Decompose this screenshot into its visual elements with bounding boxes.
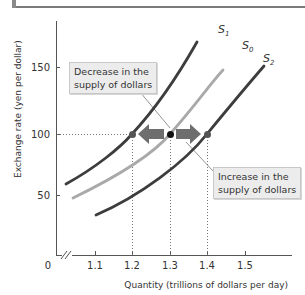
arrow-left-icon <box>138 124 164 144</box>
curve-label-s2: S2 <box>263 52 275 67</box>
increase-line1: Increase in the <box>218 170 296 183</box>
x-tick-1-1: 1.1 <box>87 260 103 271</box>
x-tick-1-2: 1.2 <box>124 260 140 271</box>
curve-label-s0: S0 <box>242 39 254 54</box>
point-s0-1-3 <box>167 131 174 138</box>
y-tick-50: 50 <box>37 190 50 201</box>
y-tick-100: 100 <box>31 129 50 140</box>
increase-leader-line <box>186 142 213 171</box>
arrow-right-icon <box>176 124 201 144</box>
decrease-line1: Decrease in the <box>74 65 152 78</box>
increase-line2: supply of dollars <box>218 183 296 196</box>
y-tick-150: 150 <box>31 62 50 73</box>
chart-plot: 150 100 50 0 1.1 1.2 1.3 1.4 1.5 Quantit… <box>0 0 305 295</box>
x-tick-1-5: 1.5 <box>237 260 253 271</box>
decrease-supply-callout: Decrease in the supply of dollars <box>69 62 157 94</box>
x-tick-1-3: 1.3 <box>162 260 178 271</box>
decrease-line2: supply of dollars <box>74 78 152 91</box>
curve-label-s1: S1 <box>218 23 229 38</box>
x-axis-label: Quantity (trillions of dollars per day) <box>124 280 288 290</box>
increase-supply-callout: Increase in the supply of dollars <box>213 167 301 199</box>
point-s2-1-4 <box>204 131 211 138</box>
axis-break-icon <box>61 250 72 260</box>
origin-label: 0 <box>45 260 51 271</box>
x-tick-1-4: 1.4 <box>199 260 215 271</box>
decrease-leader-line <box>140 92 170 128</box>
point-s1-1-2 <box>129 131 136 138</box>
